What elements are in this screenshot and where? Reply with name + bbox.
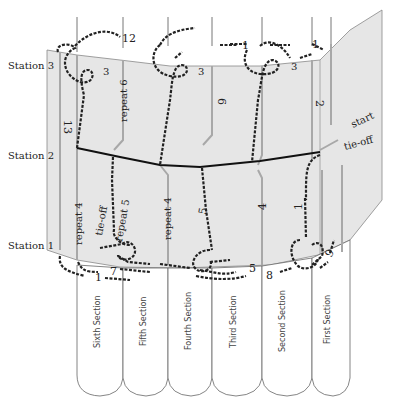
section-label-fifth: Fifth Section bbox=[139, 297, 148, 346]
section-label-third: Third Section bbox=[229, 295, 238, 349]
step-12: 12 bbox=[122, 32, 136, 45]
step-5-b: 5 bbox=[249, 262, 256, 275]
step-13: 13 bbox=[61, 120, 74, 134]
step-1-top-left: 1 bbox=[242, 39, 249, 52]
step-1-bottom: 1 bbox=[95, 271, 102, 284]
station-2-label: Station 2 bbox=[8, 150, 54, 161]
step-7: 7 bbox=[110, 265, 117, 278]
step-3-c: 3 bbox=[291, 61, 297, 72]
step-2: 2 bbox=[313, 100, 326, 107]
step-4: 4 bbox=[256, 203, 269, 210]
section-label-fourth: Fourth Section bbox=[184, 292, 193, 350]
section-label-first: First Section bbox=[323, 295, 332, 344]
section-label-second: Second Section bbox=[278, 290, 287, 352]
step-6: 6 bbox=[215, 98, 228, 105]
step-3-a: 3 bbox=[103, 66, 109, 77]
sewing-diagram: Sixth Section Fifth Section Fourth Secti… bbox=[0, 0, 396, 412]
step-1-top-right: 1 bbox=[312, 38, 319, 51]
repeat-6: repeat 6 bbox=[118, 79, 129, 122]
section-label-sixth: Sixth Section bbox=[93, 295, 102, 348]
repeat-4-mid: repeat 4 bbox=[162, 197, 173, 240]
step-8: 8 bbox=[266, 269, 273, 282]
section-fold-lines bbox=[77, 17, 331, 52]
repeat-4-left: repeat 4 bbox=[73, 202, 84, 245]
step-3-b: 3 bbox=[198, 66, 204, 77]
step-1-mid: 1 bbox=[292, 203, 305, 210]
station-3-label: Station 3 bbox=[8, 60, 54, 71]
station-1-label: Station 1 bbox=[8, 240, 54, 251]
